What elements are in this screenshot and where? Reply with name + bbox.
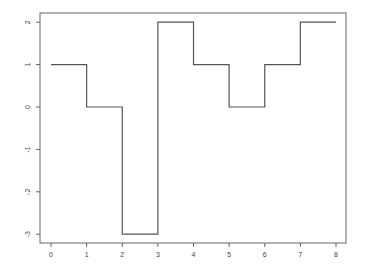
x-axis: 012345678 <box>49 243 338 258</box>
step-line <box>51 22 336 234</box>
y-tick-label: -1 <box>24 146 31 152</box>
x-tick-label: 8 <box>334 251 338 258</box>
x-tick-label: 0 <box>49 251 53 258</box>
x-tick-label: 5 <box>227 251 231 258</box>
step-series <box>51 22 336 234</box>
x-tick-label: 7 <box>298 251 302 258</box>
step-chart: 012345678 210-1-2-3 <box>0 0 365 270</box>
y-tick-label: 1 <box>24 63 31 67</box>
x-tick-label: 4 <box>192 251 196 258</box>
y-tick-label: -3 <box>24 231 31 237</box>
x-tick-label: 2 <box>120 251 124 258</box>
x-tick-label: 3 <box>156 251 160 258</box>
y-tick-label: 2 <box>24 20 31 24</box>
x-tick-label: 1 <box>85 251 89 258</box>
y-tick-label: 0 <box>24 105 31 109</box>
y-axis: 210-1-2-3 <box>24 20 40 237</box>
y-tick-label: -2 <box>24 189 31 195</box>
x-tick-label: 6 <box>263 251 267 258</box>
